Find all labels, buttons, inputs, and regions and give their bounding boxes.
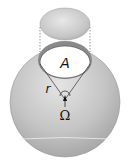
solid-angle-label: Ω bbox=[60, 108, 71, 123]
solid-angle-diagram: A r Ω bbox=[0, 0, 129, 167]
lifted-cap bbox=[40, 8, 90, 40]
area-label: A bbox=[59, 55, 70, 71]
